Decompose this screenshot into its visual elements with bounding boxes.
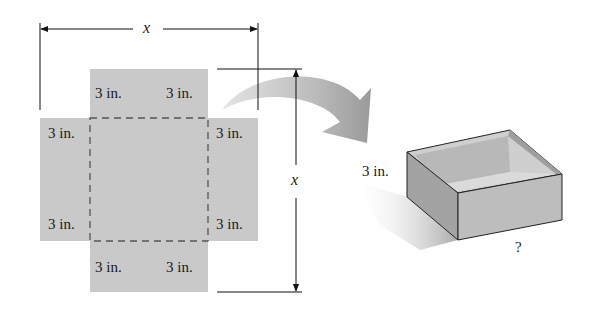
flap-label-top-right: 3 in.	[166, 86, 193, 101]
flap-label-bottom-right: 3 in.	[166, 260, 193, 275]
flap-label-left-bottom: 3 in.	[48, 217, 75, 232]
diagram-canvas	[0, 0, 595, 309]
cardboard-net	[40, 69, 258, 292]
flap-label-left-top: 3 in.	[48, 126, 75, 141]
box-height-label: 3 in.	[362, 164, 389, 179]
flap-label-bottom-left: 3 in.	[95, 260, 122, 275]
flap-label-right-top: 3 in.	[216, 126, 243, 141]
box-unknown-label: ?	[515, 240, 522, 255]
flap-label-top-left: 3 in.	[95, 86, 122, 101]
height-label: x	[291, 172, 298, 188]
open-box	[352, 130, 562, 250]
width-label: x	[143, 20, 150, 36]
flap-label-right-bottom: 3 in.	[216, 217, 243, 232]
